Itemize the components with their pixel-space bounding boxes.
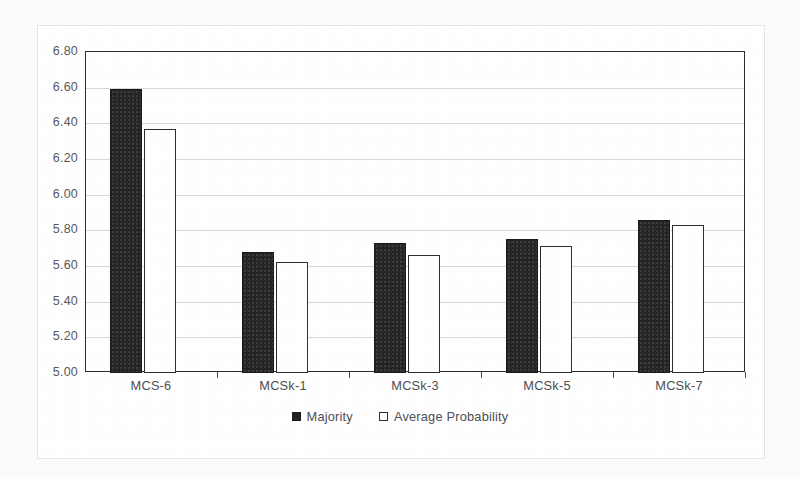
- y-axis-tick-label: 6.00: [26, 187, 78, 201]
- plot-area: [85, 51, 745, 372]
- x-axis-category-label: MCS-6: [131, 378, 172, 393]
- x-axis-category-label: MCSk-5: [523, 378, 570, 393]
- bar-majority: [506, 239, 538, 373]
- x-axis-category-label: MCSk-3: [391, 378, 438, 393]
- legend-swatch-majority-icon: [292, 412, 301, 421]
- legend-label: Average Probability: [394, 409, 509, 424]
- scanned-page: 6.806.606.406.206.005.805.605.405.205.00…: [0, 0, 800, 478]
- bar-majority: [110, 89, 142, 373]
- legend-entry: Majority: [292, 409, 353, 424]
- bar-majority: [638, 220, 670, 373]
- y-axis-tick-label: 6.80: [26, 44, 78, 58]
- bar-average-probability: [540, 246, 572, 373]
- bar-majority: [374, 243, 406, 373]
- y-axis-tick-label: 6.40: [26, 115, 78, 129]
- y-axis-tick-label: 5.60: [26, 258, 78, 272]
- legend-swatch-average-probability-icon: [379, 412, 388, 421]
- legend-entry: Average Probability: [379, 409, 509, 424]
- bar-majority: [242, 252, 274, 373]
- chart-legend: MajorityAverage Probability: [0, 409, 800, 424]
- gridline: [86, 88, 744, 89]
- y-axis-tick-label: 6.60: [26, 80, 78, 94]
- y-axis-tick-label: 5.20: [26, 329, 78, 343]
- bar-average-probability: [276, 262, 308, 373]
- gridline: [86, 195, 744, 196]
- y-axis-tick-label: 5.00: [26, 365, 78, 379]
- x-axis-category-label: MCSk-7: [655, 378, 702, 393]
- legend-label: Majority: [307, 409, 353, 424]
- y-axis-tick-label: 6.20: [26, 151, 78, 165]
- x-axis-category-label: MCSk-1: [259, 378, 306, 393]
- y-axis-tick-label: 5.80: [26, 222, 78, 236]
- bar-average-probability: [408, 255, 440, 373]
- gridline: [86, 159, 744, 160]
- bar-chart: 6.806.606.406.206.005.805.605.405.205.00…: [0, 0, 800, 478]
- x-axis-tick: [481, 372, 482, 378]
- y-axis-tick-label: 5.40: [26, 294, 78, 308]
- x-axis-tick: [745, 372, 746, 378]
- bar-average-probability: [672, 225, 704, 373]
- gridline: [86, 123, 744, 124]
- x-axis-tick: [349, 372, 350, 378]
- x-axis-tick: [217, 372, 218, 378]
- bar-average-probability: [144, 129, 176, 373]
- x-axis-tick: [613, 372, 614, 378]
